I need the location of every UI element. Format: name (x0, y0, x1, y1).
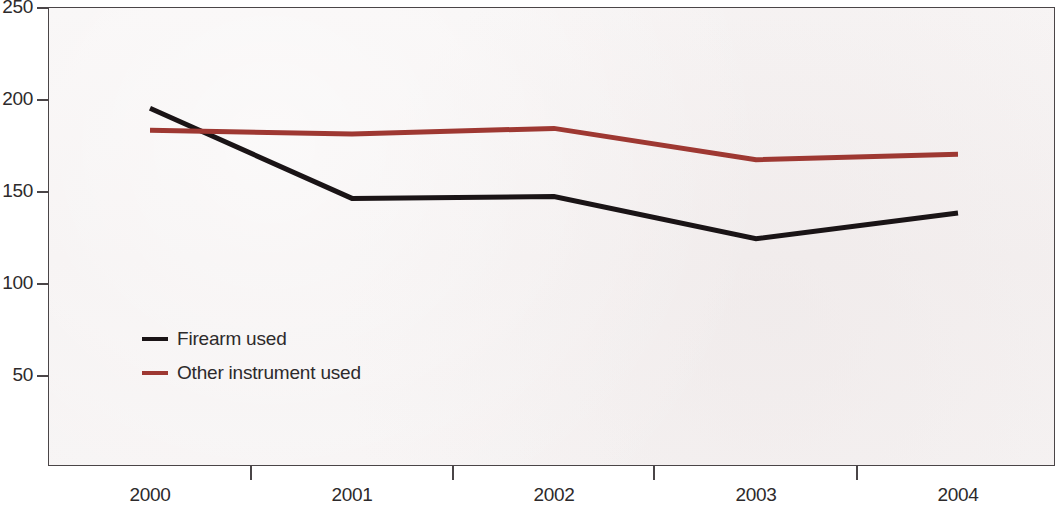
legend-line-swatch-icon-black (142, 337, 168, 341)
x-tick-label-2003: 2003 (735, 484, 776, 506)
y-tick-label-150: 150 (2, 180, 33, 202)
x-tick-boundary-3 (653, 466, 655, 480)
plot-background-texture (49, 8, 1054, 465)
x-tick-label-2001: 2001 (331, 484, 372, 506)
y-tick-label-50: 50 (12, 364, 33, 386)
y-tick-label-200: 200 (2, 88, 33, 110)
x-tick-label-2000: 2000 (129, 484, 170, 506)
y-tick-100 (37, 283, 48, 285)
y-tick-150 (37, 191, 48, 193)
legend-label-firearm-used: Firearm used (177, 328, 287, 350)
y-tick-250 (37, 7, 48, 9)
legend-line-swatch-icon-red (142, 371, 168, 375)
x-tick-label-2002: 2002 (533, 484, 574, 506)
x-tick-boundary-4 (856, 466, 858, 480)
y-tick-50 (37, 375, 48, 377)
line-chart-figure: 250 200 150 100 50 2000 2001 2002 2003 2… (0, 0, 1064, 514)
y-tick-label-250: 250 (2, 0, 33, 18)
legend: Firearm used Other instrument used (142, 322, 361, 390)
legend-label-other-instrument-used: Other instrument used (177, 362, 361, 384)
y-tick-label-100: 100 (2, 272, 33, 294)
y-axis: 250 200 150 100 50 (0, 0, 48, 514)
y-tick-200 (37, 99, 48, 101)
x-tick-boundary-1 (250, 466, 252, 480)
legend-item-other-instrument-used: Other instrument used (142, 356, 361, 390)
plot-area (48, 7, 1055, 466)
legend-item-firearm-used: Firearm used (142, 322, 361, 356)
x-tick-boundary-2 (452, 466, 454, 480)
x-tick-label-2004: 2004 (937, 484, 978, 506)
